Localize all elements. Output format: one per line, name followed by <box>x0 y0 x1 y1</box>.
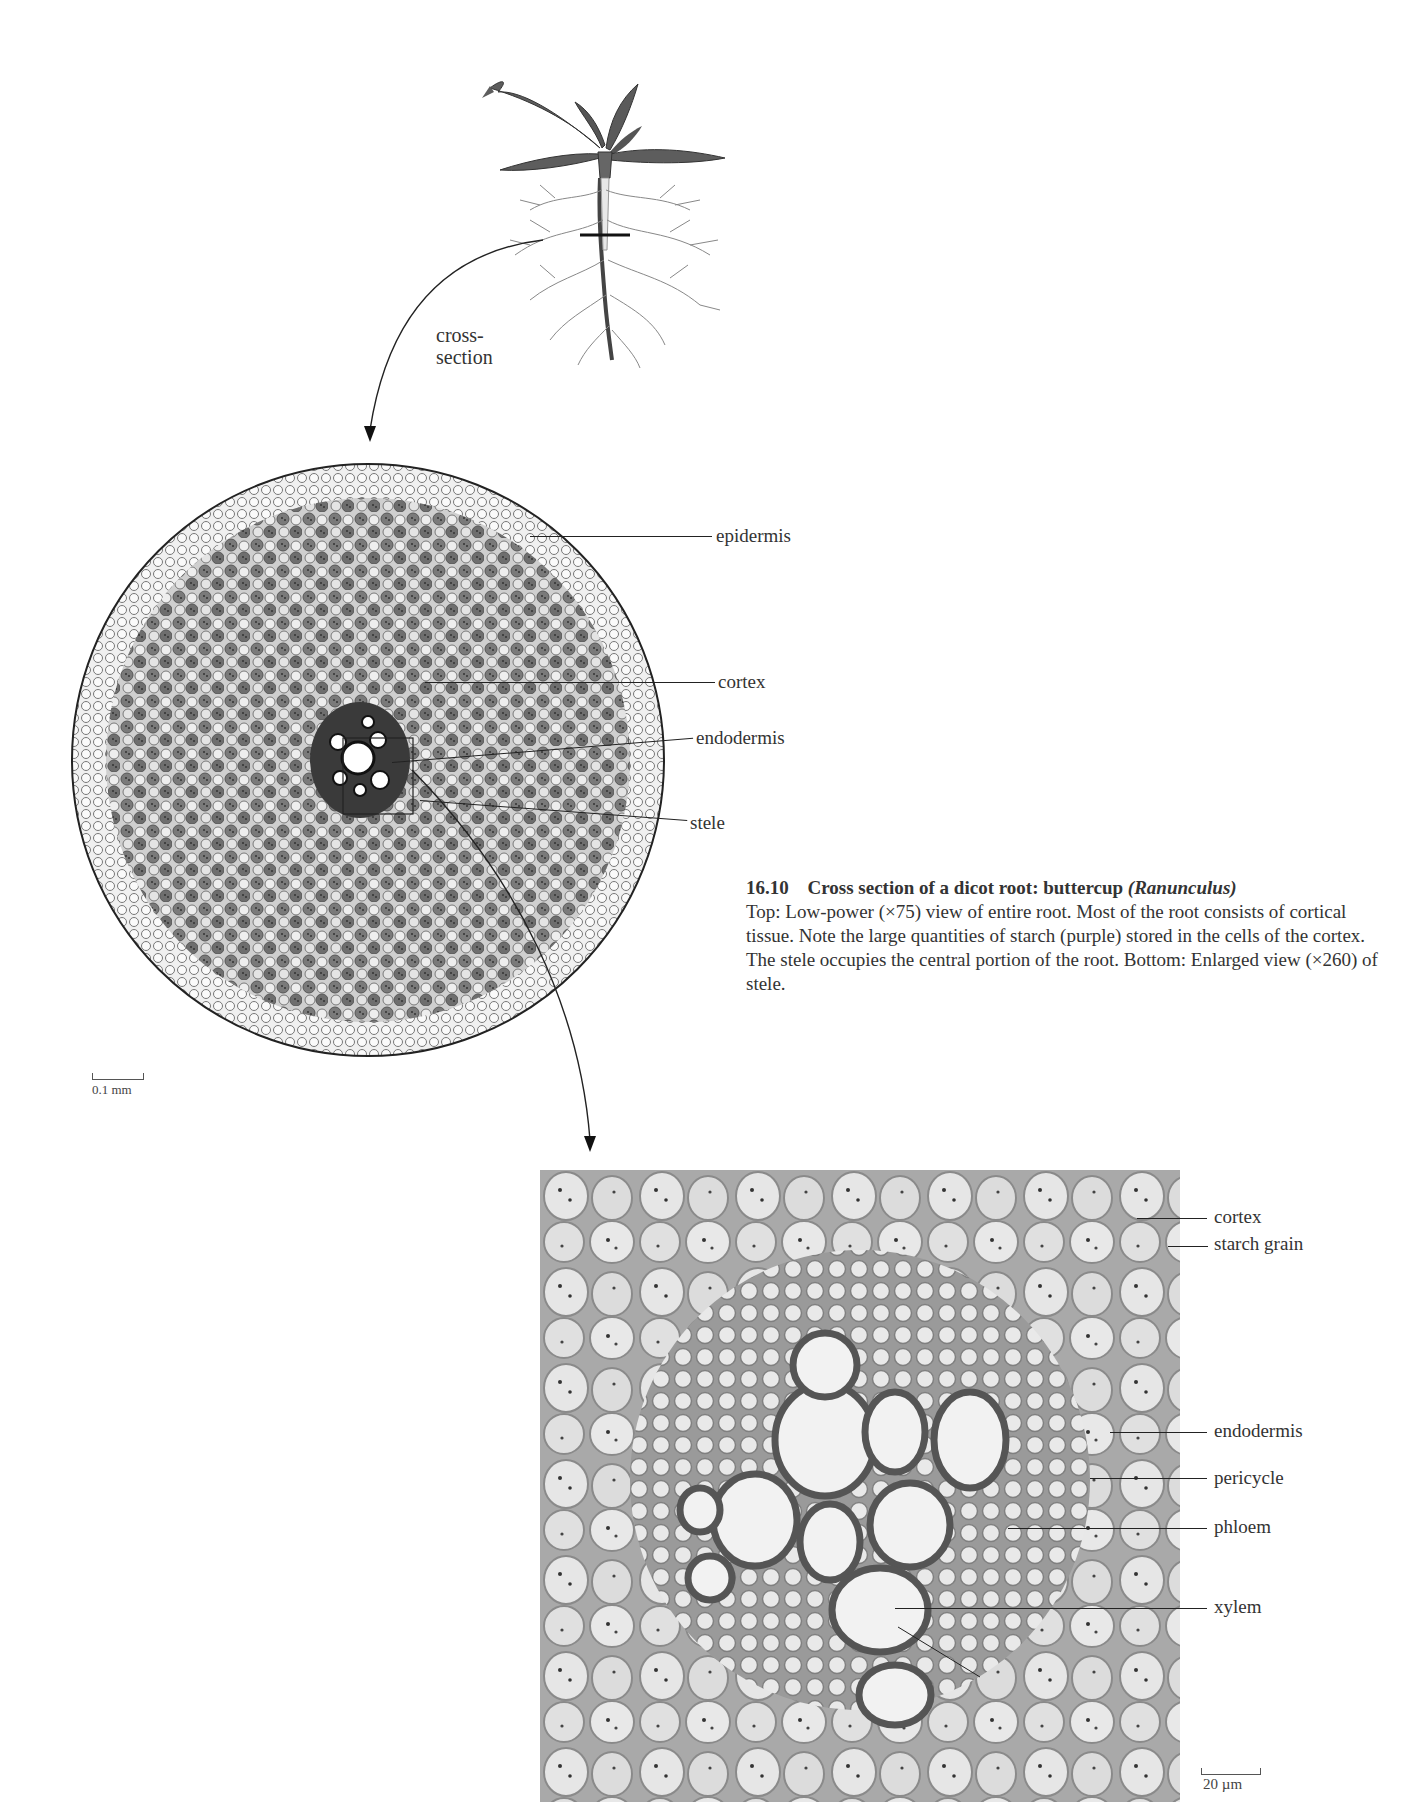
leader-epidermis <box>530 536 712 537</box>
label-xylem: xylem <box>1214 1596 1262 1618</box>
label-stele: stele <box>690 812 725 834</box>
label-cortex: cortex <box>718 671 765 693</box>
scale-bar-bottom <box>1201 1768 1261 1775</box>
leader-starch-grain <box>1168 1246 1208 1247</box>
stele-image <box>540 1170 1180 1802</box>
leader-cortex <box>425 682 715 683</box>
figure-caption: 16.10 Cross section of a dicot root: but… <box>746 876 1396 996</box>
caption-body: Top: Low-power (×75) view of entire root… <box>746 900 1396 996</box>
label-epidermis: epidermis <box>716 525 791 547</box>
callout-line-1: cross- <box>436 324 493 346</box>
label-cortex-bottom: cortex <box>1214 1206 1261 1228</box>
figure-number: 16.10 <box>746 877 789 898</box>
figure-title: Cross section of a dicot root: buttercup <box>808 877 1124 898</box>
label-endodermis: endodermis <box>696 727 785 749</box>
leader-endodermis-bottom <box>1110 1432 1207 1433</box>
scale-label-bottom: 20 µm <box>1203 1776 1242 1793</box>
label-pericycle: pericycle <box>1214 1467 1284 1489</box>
leader-pericycle <box>1090 1478 1207 1479</box>
leader-phloem <box>1008 1528 1207 1529</box>
figure-title-species: (Ranunculus) <box>1128 877 1237 898</box>
scale-label-top: 0.1 mm <box>92 1082 132 1098</box>
cross-section-callout: cross- section <box>436 324 493 368</box>
label-phloem: phloem <box>1214 1516 1271 1538</box>
callout-arrow-bottom <box>400 760 640 1160</box>
label-starch-grain: starch grain <box>1214 1233 1303 1255</box>
callout-line-2: section <box>436 346 493 368</box>
caption-heading: 16.10 Cross section of a dicot root: but… <box>746 876 1396 900</box>
leader-cortex-bottom <box>1137 1218 1207 1219</box>
stele-enlarged-micrograph <box>540 1170 1180 1802</box>
leader-xylem <box>895 1608 1207 1609</box>
scale-bar-top <box>92 1073 144 1080</box>
label-endodermis-bottom: endodermis <box>1214 1420 1303 1442</box>
